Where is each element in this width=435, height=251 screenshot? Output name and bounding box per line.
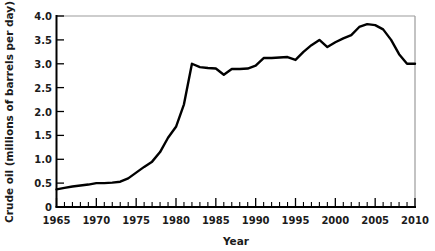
- y-axis-tick-labels: 4.0 3.5 3.0 2.5 2.0 1.5 1.0 0.5 0: [34, 11, 52, 213]
- y-axis-ticks: [57, 16, 64, 207]
- y-tick-label-2-5: 2.5: [34, 83, 52, 94]
- x-tick-label-1990: 1990: [242, 215, 270, 226]
- y-tick-label-3-5: 3.5: [34, 35, 52, 46]
- plot-frame: [56, 15, 417, 208]
- x-tick-label-1965: 1965: [43, 215, 71, 226]
- x-axis-tick-labels: 1965197019751980198519901995200020052010: [43, 215, 429, 226]
- x-tick-label-2005: 2005: [361, 215, 389, 226]
- y-axis-title: Crude oil (millions of barrels per day): [3, 1, 15, 223]
- y-tick-label-0: 0: [45, 202, 52, 213]
- x-tick-label-2000: 2000: [321, 215, 349, 226]
- x-tick-label-1970: 1970: [82, 215, 110, 226]
- x-axis-title: Year: [222, 235, 250, 247]
- x-tick-label-1980: 1980: [162, 215, 190, 226]
- y-tick-label-0-5: 0.5: [34, 178, 52, 189]
- y-tick-label-3-0: 3.0: [34, 59, 52, 70]
- x-tick-label-1995: 1995: [282, 215, 310, 226]
- x-tick-label-1985: 1985: [202, 215, 230, 226]
- crude-oil-line-chart: 4.0 3.5 3.0 2.5 2.0 1.5 1.0 0.5 0 196519…: [0, 0, 435, 251]
- data-series-crude-oil-production: [57, 24, 416, 189]
- y-tick-label-1-0: 1.0: [34, 154, 52, 165]
- chart-figure: 4.0 3.5 3.0 2.5 2.0 1.5 1.0 0.5 0 196519…: [0, 0, 435, 251]
- y-tick-label-4-0: 4.0: [34, 11, 52, 22]
- y-tick-label-2-0: 2.0: [34, 107, 52, 118]
- x-tick-label-2010: 2010: [401, 215, 429, 226]
- x-axis-ticks: [57, 198, 416, 207]
- y-tick-label-1-5: 1.5: [34, 130, 52, 141]
- x-tick-label-1975: 1975: [122, 215, 150, 226]
